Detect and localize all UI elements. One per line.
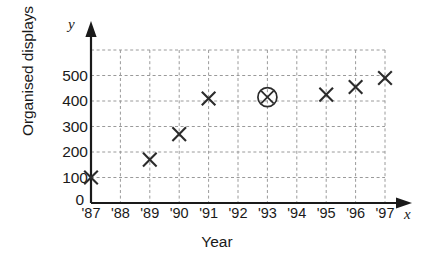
x-axis-title: Year	[0, 233, 434, 251]
axis-lines: 0	[75, 21, 412, 209]
x-tick-label: '97	[376, 205, 395, 221]
x-axis-letter: x	[404, 206, 411, 223]
x-tick-label: '92	[229, 205, 248, 221]
x-tick-label: '91	[199, 205, 218, 221]
data-markers	[84, 71, 392, 184]
x-tick-label: '90	[170, 205, 189, 221]
x-tick-label: '89	[140, 205, 159, 221]
x-tick-label: '95	[317, 205, 336, 221]
plot-canvas: 0	[0, 0, 434, 263]
scatter-chart: Organised displays y 100200300400500 0 '…	[0, 0, 434, 263]
x-tick-label: '87	[82, 205, 101, 221]
x-tick-label: '88	[111, 205, 130, 221]
x-tick-label: '94	[287, 205, 306, 221]
x-tick-label: '93	[258, 205, 277, 221]
x-tick-label: '96	[346, 205, 365, 221]
y-axis-arrowhead	[85, 21, 96, 37]
